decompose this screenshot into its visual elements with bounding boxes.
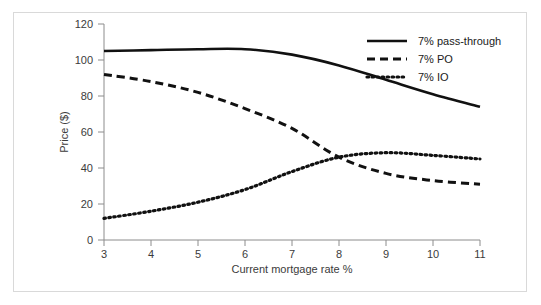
y-tick-label: 100 — [75, 54, 93, 66]
x-tick-label: 4 — [148, 248, 154, 260]
y-axis-title: Price ($) — [58, 111, 70, 153]
x-tick-label: 6 — [242, 248, 248, 260]
x-axis-ticks — [104, 240, 480, 246]
x-tick-label: 9 — [383, 248, 389, 260]
y-tick-label: 0 — [87, 234, 93, 246]
y-axis-ticks — [98, 24, 104, 240]
legend-label-2: 7% IO — [418, 71, 449, 83]
x-axis-title: Current mortgage rate % — [231, 263, 352, 275]
mortgage-price-chart: 020406080100120 34567891011 Price ($) Cu… — [0, 0, 541, 305]
legend-label-0: 7% pass-through — [418, 35, 501, 47]
x-tick-label: 7 — [289, 248, 295, 260]
legend-label-1: 7% PO — [418, 53, 453, 65]
series-line-2 — [104, 153, 480, 219]
y-tick-label: 120 — [75, 18, 93, 30]
y-tick-label: 80 — [81, 90, 93, 102]
x-tick-label: 8 — [336, 248, 342, 260]
y-tick-label: 20 — [81, 198, 93, 210]
y-tick-label: 40 — [81, 162, 93, 174]
x-axis-tick-labels: 34567891011 — [101, 248, 486, 260]
x-tick-label: 10 — [427, 248, 439, 260]
y-tick-label: 60 — [81, 126, 93, 138]
x-tick-label: 3 — [101, 248, 107, 260]
chart-legend: 7% pass-through7% PO7% IO — [367, 35, 501, 83]
x-tick-label: 11 — [474, 248, 485, 260]
x-tick-label: 5 — [195, 248, 201, 260]
y-axis-tick-labels: 020406080100120 — [75, 18, 93, 246]
